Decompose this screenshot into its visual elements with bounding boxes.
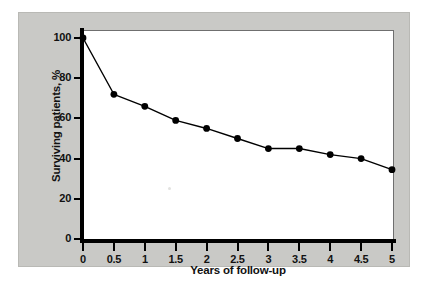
data-point-marker	[80, 35, 87, 42]
x-axis-title: Years of follow-up	[82, 264, 394, 276]
data-point-marker	[358, 155, 365, 162]
figure-container: 020406080100 00.511.522.533.544.55 Years…	[0, 0, 425, 287]
survival-curve-line	[83, 38, 392, 170]
data-point-marker	[141, 103, 148, 110]
data-series-line	[18, 12, 410, 267]
chart-panel: 020406080100 00.511.522.533.544.55 Years…	[18, 12, 410, 267]
data-point-marker	[111, 91, 118, 98]
data-point-marker	[234, 135, 241, 142]
data-point-marker	[296, 145, 303, 152]
y-axis-title: Surviving patients, %	[50, 26, 62, 226]
data-point-marker	[327, 151, 334, 158]
data-point-marker	[389, 166, 396, 173]
data-point-marker	[265, 145, 272, 152]
data-point-marker	[172, 117, 179, 124]
data-point-marker	[203, 125, 210, 132]
